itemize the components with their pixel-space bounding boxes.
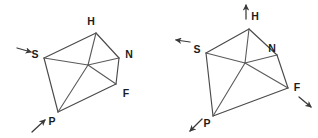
vertex-label-H: H [251, 10, 259, 22]
arrow-S-icon [17, 48, 31, 52]
arrow-P-icon [190, 119, 202, 131]
vertex-label-F: F [123, 87, 130, 99]
vertex-label-S: S [193, 43, 200, 55]
spoke-hub-N [88, 58, 119, 65]
edge-P-S [206, 53, 213, 116]
right-pentagon-diagram: HNFPS [176, 5, 311, 131]
vertex-label-F: F [294, 81, 301, 93]
arrow-S-icon [176, 40, 190, 42]
edge-P-S [44, 58, 58, 112]
spoke-hub-N [245, 55, 277, 63]
arrow-P-icon [32, 120, 45, 132]
spoke-hub-H [245, 29, 249, 63]
vertex-label-P: P [48, 115, 55, 127]
spoke-hub-P [213, 63, 245, 116]
edge-H-N [96, 33, 119, 58]
edge-S-H [206, 29, 249, 53]
edge-F-P [213, 88, 288, 116]
edge-N-F [116, 58, 119, 84]
vertex-label-P: P [203, 117, 210, 129]
vertex-label-H: H [87, 15, 95, 27]
spoke-hub-H [88, 33, 96, 65]
spoke-hub-S [44, 58, 88, 65]
pentagon-force-diagrams: HNFPS HNFPS [0, 0, 318, 138]
left-pentagon-diagram: HNFPS [17, 15, 133, 132]
vertex-label-N: N [125, 48, 133, 60]
vertex-label-S: S [31, 48, 38, 60]
edge-S-H [44, 33, 96, 58]
arrow-F-icon [299, 97, 311, 107]
spoke-hub-S [206, 53, 245, 63]
vertex-label-N: N [268, 42, 276, 54]
spoke-hub-F [245, 63, 288, 88]
spoke-hub-F [88, 65, 116, 84]
